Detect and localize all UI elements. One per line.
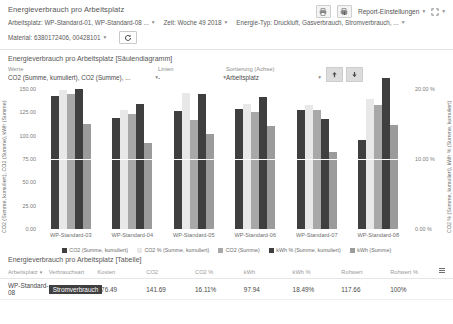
table-column-header[interactable]: CO2: [146, 266, 195, 279]
x-axis-label: WP-Standard-03: [40, 232, 102, 238]
sort-direction-buttons: [326, 67, 363, 82]
y-tick-left: 0.00: [26, 226, 37, 232]
print-button[interactable]: [316, 5, 331, 18]
legend-item[interactable]: CO2 (Summe, kumuliert): [62, 247, 128, 253]
arrow-down-icon: [351, 71, 358, 78]
bar[interactable]: [206, 134, 214, 229]
y-tick-left: 25.00: [23, 203, 37, 209]
bar[interactable]: [251, 112, 259, 229]
bar[interactable]: [198, 94, 206, 229]
bar[interactable]: [374, 105, 382, 229]
bar[interactable]: [366, 99, 374, 229]
chevron-down-icon: ▾: [442, 9, 445, 15]
control-linien: Linien - ▾: [158, 66, 226, 82]
control-werte-label: Werte: [8, 66, 158, 72]
bar[interactable]: [267, 126, 275, 229]
selected-cell-value[interactable]: Stromverbrauch: [49, 285, 102, 294]
column-settings-icon[interactable]: [439, 268, 445, 274]
bar[interactable]: [182, 93, 190, 229]
fullscreen-icon: [431, 8, 439, 16]
bar[interactable]: [358, 140, 366, 229]
bar[interactable]: [382, 78, 390, 229]
table-column-header[interactable]: Rohwert %: [390, 266, 439, 279]
legend-label: CO2 % (Summe, kumuliert): [144, 247, 209, 253]
table-column-header[interactable]: kWh %: [293, 266, 342, 279]
fullscreen-menu[interactable]: ▾: [431, 8, 445, 16]
control-linien-select[interactable]: - ▾: [158, 74, 226, 82]
bar[interactable]: [144, 143, 152, 229]
table-column-header[interactable]: Kosten: [98, 266, 147, 279]
export-report-button[interactable]: [337, 5, 352, 18]
legend-item[interactable]: kWh (Summe): [350, 247, 391, 253]
control-linien-label: Linien: [158, 66, 226, 72]
y-tick-left: 125.00: [20, 109, 37, 115]
sort-descending-button[interactable]: [346, 67, 363, 82]
table-cell-rohwert-pct: 100%: [390, 279, 439, 300]
filter-material[interactable]: Material: 6380172406, 00428101 ▾: [8, 34, 106, 41]
bar[interactable]: [297, 110, 305, 229]
data-table: Arbeitsplatz▾VerbrauchsartKostenCO2CO2 %…: [0, 266, 453, 300]
control-sortierung-value: Arbeitsplatz: [226, 74, 259, 81]
table-cell-kwh-pct: 18.49%: [293, 279, 342, 300]
legend-item[interactable]: CO2 % (Summe, kumuliert): [137, 247, 209, 253]
control-sortierung-select[interactable]: Arbeitsplatz ▾: [226, 74, 321, 82]
bar[interactable]: [83, 124, 91, 229]
chevron-down-icon: ▾: [224, 20, 227, 26]
export-report-icon: [340, 8, 348, 16]
table-column-header[interactable]: Arbeitsplatz▾: [0, 266, 49, 279]
bar[interactable]: [120, 110, 128, 229]
bar[interactable]: [190, 120, 198, 229]
y-tick-left: 50.00: [23, 179, 37, 185]
chart-legend: CO2 (Summe, kumuliert)CO2 % (Summe, kumu…: [0, 247, 453, 253]
table-header-row: Arbeitsplatz▾VerbrauchsartKostenCO2CO2 %…: [0, 266, 453, 279]
filter-zeit[interactable]: Zeit: Woche 49 2018 ▾: [163, 19, 227, 26]
bar[interactable]: [112, 118, 120, 229]
refresh-icon: [124, 34, 132, 42]
filter-energie-typ[interactable]: Energie-Typ: Druckluft, Gasverbrauch, St…: [236, 19, 404, 26]
legend-item[interactable]: kWh % (Summe, kumuliert): [269, 247, 341, 253]
legend-swatch: [62, 248, 67, 253]
table-column-header[interactable]: Verbrauchsart: [49, 266, 98, 279]
control-werte-value: CO2 (Summe, kumuliert), CO2 (Summe), ...: [8, 74, 130, 81]
y-axis-ticks-right: 0.00 %10.00 %20.00 %: [415, 89, 447, 229]
bar[interactable]: [329, 152, 337, 229]
table-column-header[interactable]: CO2 %: [195, 266, 244, 279]
bar[interactable]: [313, 110, 321, 229]
print-icon: [319, 8, 327, 16]
table-column-header[interactable]: Rohwert: [341, 266, 390, 279]
table-cell-spacer: [439, 279, 453, 300]
filter-energie-typ-label: Energie-Typ: Druckluft, Gasverbrauch, St…: [236, 19, 398, 26]
table-row[interactable]: WP-Standard-08Stromverbrauch176.49141.69…: [0, 279, 453, 300]
table-cell-rohwert: 117.66: [341, 279, 390, 300]
legend-label: CO2 (Summe, kumuliert): [69, 247, 128, 253]
report-page: Energieverbrauch pro Arbeitsplatz Arbeit…: [0, 0, 453, 324]
table-column-header[interactable]: kWh: [244, 266, 293, 279]
refresh-button[interactable]: [119, 31, 137, 44]
bar[interactable]: [305, 105, 313, 229]
bar[interactable]: [390, 125, 398, 229]
control-werte: Werte CO2 (Summe, kumuliert), CO2 (Summe…: [8, 66, 158, 82]
report-settings-menu[interactable]: Report-Einstellungen ▾: [358, 8, 425, 15]
table-cell-verbrauchsart: Stromverbrauch: [49, 279, 98, 300]
bar[interactable]: [243, 104, 251, 229]
control-werte-select[interactable]: CO2 (Summe, kumuliert), CO2 (Summe), ...…: [8, 74, 158, 82]
bar[interactable]: [51, 96, 59, 229]
legend-item[interactable]: CO2 (Summe): [218, 247, 260, 253]
table-cell-kwh: 97.94: [244, 279, 293, 300]
x-axis-label: WP-Standard-06: [225, 232, 287, 238]
chart-plot-area: CO2 (Summe, kumuliert), CO2 (Summe), kWh…: [0, 85, 453, 253]
bar[interactable]: [321, 119, 329, 229]
column-settings-header[interactable]: [439, 266, 453, 279]
y-tick-left: 100.00: [20, 133, 37, 139]
bar[interactable]: [67, 94, 75, 229]
filter-arbeitsplatz[interactable]: Arbeitsplatz: WP-Standard-01, WP-Standar…: [8, 19, 154, 26]
legend-label: kWh % (Summe, kumuliert): [276, 247, 340, 253]
bar[interactable]: [128, 114, 136, 229]
control-linien-value: -: [158, 74, 160, 81]
bar[interactable]: [174, 111, 182, 229]
bar[interactable]: [136, 104, 144, 229]
filter-zeit-label: Zeit: Woche 49 2018: [163, 19, 221, 26]
sort-ascending-button[interactable]: [326, 67, 343, 82]
bar[interactable]: [259, 97, 267, 229]
bar[interactable]: [235, 109, 243, 229]
